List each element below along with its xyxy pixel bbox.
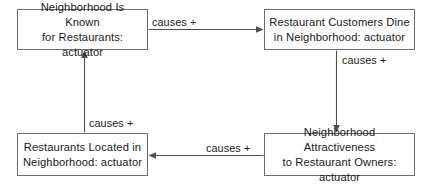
edge-right-arrow	[333, 51, 340, 133]
edge-label-right: causes +	[342, 54, 386, 66]
node-neighborhood-attractiveness-to-restaurant-owners[interactable]: Neighborhood Attractiveness to Restauran…	[264, 133, 415, 176]
edge-label-left: causes +	[89, 117, 133, 129]
edge-label-bottom: causes +	[206, 142, 250, 154]
node-restaurant-customers-dine-in-neighborhood[interactable]: Restaurant Customers Dine in Neighborhoo…	[264, 9, 415, 50]
causal-loop-diagram: Neighborhood Is Known for Restaurants: a…	[0, 0, 436, 187]
node-neighborhood-is-known-for-restaurants[interactable]: Neighborhood Is Known for Restaurants: a…	[17, 9, 148, 50]
node-label: Neighborhood Attractiveness to Restauran…	[269, 125, 410, 185]
edge-left-arrow	[81, 51, 88, 133]
node-label: Neighborhood Is Known for Restaurants: a…	[22, 0, 143, 60]
node-label: Restaurant Customers Dine in Neighborhoo…	[269, 15, 410, 45]
edge-label-top: causes +	[152, 16, 196, 28]
node-label: Restaurants Located in Neighborhood: act…	[23, 140, 142, 170]
node-restaurants-located-in-neighborhood[interactable]: Restaurants Located in Neighborhood: act…	[17, 133, 148, 176]
